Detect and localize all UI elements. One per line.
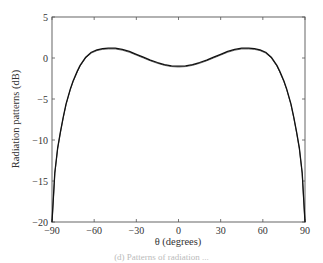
radiation-pattern-chart: −90−60−300306090 50−5−10−15−20 θ (degree… — [0, 0, 323, 252]
data-series — [52, 48, 305, 223]
figure-caption-fragment: (d) Patterns of radiation ... — [0, 252, 323, 263]
x-tick-label: 0 — [176, 225, 181, 236]
y-tick-label: −20 — [32, 217, 48, 228]
x-tick-label: −30 — [129, 225, 145, 236]
y-tick-label: 0 — [43, 53, 48, 64]
y-tick-label: 5 — [43, 12, 48, 23]
x-axis-ticks: −90−60−300306090 — [44, 17, 310, 236]
series-line — [52, 48, 305, 222]
y-tick-label: −5 — [37, 94, 48, 105]
y-tick-label: −10 — [32, 135, 48, 146]
x-axis-label: θ (degrees) — [155, 236, 202, 248]
x-tick-label: −60 — [86, 225, 102, 236]
y-tick-label: −15 — [32, 176, 48, 187]
x-tick-label: 90 — [300, 225, 310, 236]
y-axis-label: Radiation patterns (dB) — [10, 69, 22, 168]
x-tick-label: 30 — [216, 225, 226, 236]
plot-frame — [52, 17, 305, 222]
y-axis-ticks: 50−5−10−15−20 — [32, 12, 305, 228]
x-tick-label: 60 — [258, 225, 268, 236]
